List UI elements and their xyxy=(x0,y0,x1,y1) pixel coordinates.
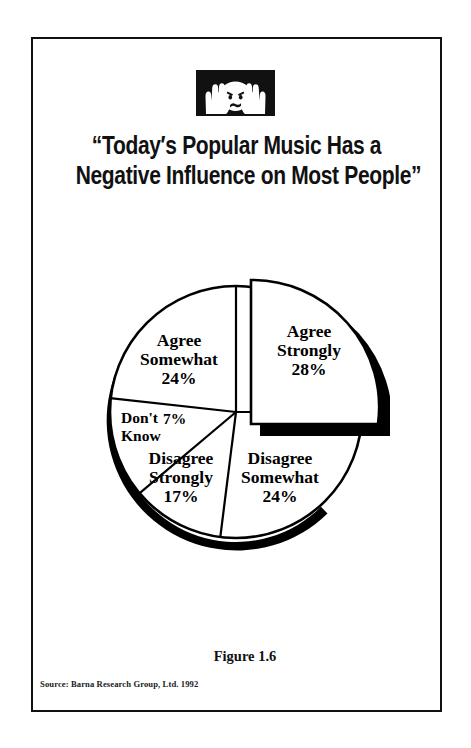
figure-caption: Figure 1.6 xyxy=(150,648,340,665)
title-line-2: Negative Influence on Most People” xyxy=(76,160,398,190)
figure-source: Source: Barna Research Group, Ltd. 1992 xyxy=(40,679,198,689)
slice-label-line2: Strongly xyxy=(277,340,341,360)
slice-label-value: 17% xyxy=(164,486,199,506)
slice-label-line2: Somewhat xyxy=(140,349,218,369)
slice-label-line2: Strongly xyxy=(149,467,213,487)
slice-label-value: 7% xyxy=(163,410,186,427)
slice-label-line2: Somewhat xyxy=(241,467,319,487)
slice-label-line1: Agree xyxy=(287,321,332,341)
slice-label-line1: Don't xyxy=(121,409,159,426)
slice-label-line1: Agree xyxy=(157,330,202,350)
slice-label-value: 24% xyxy=(162,368,197,388)
slice-label-value: 28% xyxy=(292,359,327,379)
pie-chart: Agree Strongly 28% Agree Somewhat 24% Do… xyxy=(95,258,390,558)
slice-label-value: 24% xyxy=(263,486,298,506)
angry-face-headphones-icon xyxy=(196,70,275,116)
slice-label-line1: Disagree xyxy=(248,448,313,468)
figure-page: “Today′s Popular Music Has a Negative In… xyxy=(0,0,471,748)
slice-label-line2: Know xyxy=(121,427,161,444)
title-line-1: “Today′s Popular Music Has a xyxy=(76,130,398,160)
page-title: “Today′s Popular Music Has a Negative In… xyxy=(76,130,398,190)
slice-label-line1: Disagree xyxy=(149,448,214,468)
